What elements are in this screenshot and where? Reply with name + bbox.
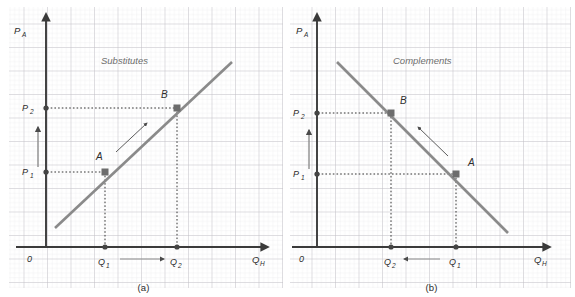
point-marker-a — [453, 171, 460, 178]
x-axis-label-subscript: H — [260, 260, 265, 267]
y-tick-marker-p1 — [314, 171, 319, 176]
y-tick-label-p1: P — [293, 169, 299, 179]
y-tick-label-p1-subscript: 1 — [301, 174, 305, 181]
grid-background — [9, 7, 283, 288]
x-tick-label-q2: Q — [384, 257, 391, 267]
point-label-a: A — [95, 151, 103, 162]
y-tick-marker-p2 — [43, 105, 48, 110]
x-tick-label-q2-subscript: 2 — [177, 262, 182, 269]
x-tick-label-q1-subscript: 1 — [106, 262, 110, 269]
annotation-substitutes: Substitutes — [101, 55, 148, 66]
y-axis-label-subscript: A — [303, 31, 308, 38]
x-tick-label-q1-subscript: 1 — [457, 262, 461, 269]
x-tick-label-q2-subscript: 2 — [391, 262, 396, 269]
point-label-b: B — [161, 89, 168, 100]
y-tick-label-p1: P — [22, 167, 28, 177]
x-tick-label-q2: Q — [170, 257, 177, 267]
x-axis-label: Q — [252, 254, 260, 265]
point-marker-b — [174, 105, 181, 112]
y-tick-marker-p1 — [43, 169, 48, 174]
point-label-b: B — [400, 95, 407, 106]
y-tick-label-p2: P — [293, 108, 299, 118]
point-marker-b — [388, 110, 395, 117]
grid-background — [290, 7, 571, 288]
y-tick-label-p2-subscript: 2 — [29, 108, 34, 115]
x-axis-label: Q — [534, 254, 542, 265]
point-label-a: A — [467, 157, 475, 168]
y-tick-label-p2-subscript: 2 — [300, 113, 305, 120]
panel-complements: P A Q H 0 P 2 P 1 Q 2 Q 1 B A Complement… — [288, 0, 575, 297]
y-axis-label: P — [14, 25, 21, 36]
x-tick-label-q1: Q — [449, 257, 456, 267]
x-axis-label-subscript: H — [542, 260, 547, 267]
plot-a: P A Q H 0 P 2 P 1 Q 1 Q 2 A B Substitute… — [0, 0, 287, 297]
y-axis-label-subscript: A — [21, 31, 26, 38]
y-tick-label-p1-subscript: 1 — [30, 172, 34, 179]
x-tick-marker-q1 — [453, 244, 458, 249]
origin-label: 0 — [27, 254, 32, 264]
figure-container: P A Q H 0 P 2 P 1 Q 1 Q 2 A B Substitute… — [0, 0, 575, 297]
point-marker-a — [102, 169, 109, 176]
y-tick-marker-p2 — [314, 110, 319, 115]
y-axis-label: P — [296, 25, 303, 36]
panel-caption-b: (b) — [288, 282, 575, 293]
plot-b: P A Q H 0 P 2 P 1 Q 2 Q 1 B A Complement… — [288, 0, 575, 297]
y-tick-label-p2: P — [22, 103, 28, 113]
panel-caption-a: (a) — [0, 282, 287, 293]
annotation-complements: Complements — [393, 55, 452, 66]
x-tick-marker-q2 — [174, 244, 179, 249]
origin-label: 0 — [299, 254, 304, 264]
x-tick-marker-q1 — [102, 244, 107, 249]
x-tick-label-q1: Q — [98, 257, 105, 267]
x-tick-marker-q2 — [388, 244, 393, 249]
panel-substitutes: P A Q H 0 P 2 P 1 Q 1 Q 2 A B Substitute… — [0, 0, 287, 297]
